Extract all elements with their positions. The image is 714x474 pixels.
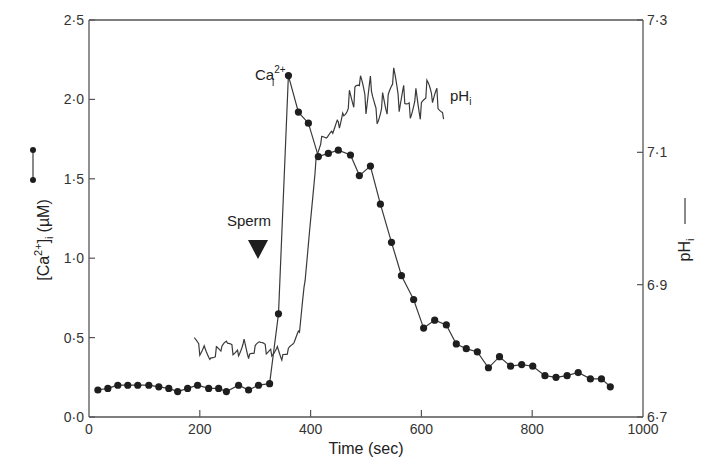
ph-series-label: pHi [450,87,471,107]
ca-data-point [223,388,230,395]
ca-data-point [474,348,481,355]
ca-data-point [388,239,395,246]
ca-data-point [295,109,302,116]
ph-label-sub: i [469,96,471,107]
ca-data-point [529,363,536,370]
ca-data-point [485,364,492,371]
y-left-title-sub: i [43,236,55,238]
ca-data-point [575,369,582,376]
x-axis-title: Time (sec) [329,440,404,457]
ca-peak-label-sub: i [272,77,274,88]
y-axis-left-title: [Ca2+]i(µM) [32,199,55,281]
x-tick-label: 0 [85,421,93,437]
ca-data-point [104,385,111,392]
sperm-arrow-icon [248,240,268,259]
ca-data-point [205,385,212,392]
y-right-title-sub: i [684,239,696,241]
x-tick-label: 600 [410,421,434,437]
y-tick-label: 2·5 [64,12,84,28]
y-right-tick-label: 7·1 [647,144,667,160]
x-tick-label: 200 [188,421,212,437]
y-right-tick-label: 6·9 [647,277,667,293]
y-tick-label: 0·0 [64,409,84,425]
y-tick-label: 0·5 [64,330,84,346]
y-right-tick-label: 6·7 [647,409,667,425]
ca-data-point [552,374,559,381]
ca-data-point [356,172,363,179]
ca-series-line [98,76,610,392]
y-tick-label: 2·0 [64,91,84,107]
y-axis-right-title: pHi [676,198,696,261]
ca-data-point [114,382,121,389]
ca-data-point [518,361,525,368]
x-axis-ticks: 02004006008001000 [85,410,659,437]
ca-data-point [420,324,427,331]
ca-data-point [215,385,222,392]
y-axis-right-ticks: 6·76·97·17·3 [637,12,667,425]
ca-data-point [255,382,262,389]
ca-data-point [124,382,131,389]
ca-data-point [235,382,242,389]
ca-peak-label-sup: 2+ [274,64,286,75]
ca-data-point [587,375,594,382]
y-axis-left-ticks: 0·00·51·01·52·02·5 [64,12,95,425]
ca-data-point [184,385,191,392]
ca-peak-label: Ca2+ [255,64,286,83]
chart-canvas: 02004006008001000 0·00·51·01·52·02·5 6·7… [0,0,714,474]
ca-data-point [564,372,571,379]
ca-data-point [607,383,614,390]
y-left-title-main: [Ca [35,256,52,281]
ca-data-point [155,383,162,390]
ca-data-point [463,345,470,352]
ca-data-point [453,340,460,347]
ca-data-point [275,310,282,317]
ca-data-point [398,272,405,279]
svg-text:pHi: pHi [676,239,696,262]
ca-data-point [245,386,252,393]
ca-data-point [541,372,548,379]
y-left-legend-glyph [30,147,36,183]
ca-data-point [410,296,417,303]
x-tick-label: 400 [299,421,323,437]
ca-data-point [305,120,312,127]
y-right-title-main: pH [676,241,693,261]
y-tick-label: 1·0 [64,250,84,266]
x-tick-label: 800 [521,421,545,437]
ca-data-point [266,380,273,387]
y-right-tick-label: 7·3 [647,12,667,28]
ph-label-main: pH [450,87,469,104]
ca-data-point [315,153,322,160]
ca-data-point [496,353,503,360]
ca-data-point [165,385,172,392]
y-left-title-sup: 2+ [32,243,44,256]
ca-data-point [443,321,450,328]
ca-data-point [94,386,101,393]
ca-data-point [377,201,384,208]
ca-data-point [145,382,152,389]
plot-frame [89,20,643,417]
ca-data-point [285,72,292,79]
y-left-title-unit: (µM) [35,199,52,232]
y-tick-label: 1·5 [64,171,84,187]
ca-data-point [507,363,514,370]
ca-data-point [367,162,374,169]
svg-text:[Ca2+]i(µM): [Ca2+]i(µM) [32,199,55,281]
ca-data-point [431,317,438,324]
ca-data-point [325,150,332,157]
ca-data-point [134,382,141,389]
ca-series-markers [94,72,614,395]
sperm-label: Sperm [227,212,271,229]
ca-data-point [598,375,605,382]
ca-data-point [174,388,181,395]
ca-data-point [347,151,354,158]
ca-data-point [335,147,342,154]
ca-data-point [194,382,201,389]
